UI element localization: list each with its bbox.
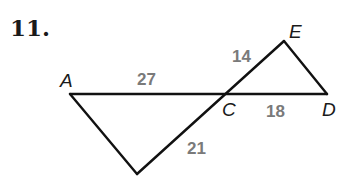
- segment-measures: 27 14 18 21: [137, 47, 285, 158]
- vertex-label-a: A: [59, 70, 73, 91]
- segment-be: [137, 41, 284, 174]
- measure-ce: 14: [232, 47, 251, 66]
- measure-bc: 21: [187, 139, 206, 158]
- measure-cd: 18: [266, 102, 285, 121]
- problem-number: 11.: [10, 14, 50, 41]
- segment-ed: [284, 41, 327, 94]
- geometry-diagram: 11. A B C D E 27 14 18 21: [0, 0, 355, 176]
- segment-ab: [70, 94, 137, 174]
- vertex-label-e: E: [289, 21, 302, 42]
- vertex-label-c: C: [222, 99, 236, 120]
- vertex-label-d: D: [322, 99, 336, 120]
- vertex-label-b: B: [131, 175, 144, 176]
- measure-ac: 27: [137, 70, 156, 89]
